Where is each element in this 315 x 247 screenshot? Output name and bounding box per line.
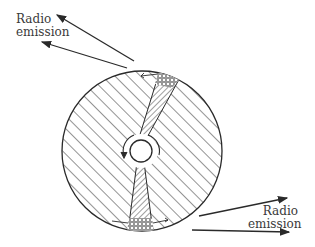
radio-emission-label-top: Radio emission <box>16 13 69 39</box>
radio-emission-label-bottom: Radio emission <box>248 205 298 231</box>
diagram-canvas: Radio emission Radio emission <box>0 0 315 247</box>
label-line-2: emission <box>248 218 298 231</box>
label-line-2: emission <box>16 26 69 39</box>
core-circle <box>124 134 158 168</box>
